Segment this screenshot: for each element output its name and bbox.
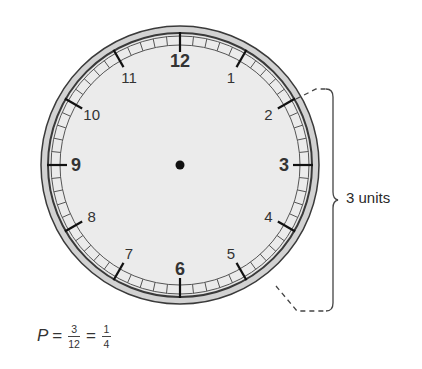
units-label: 3 units: [346, 189, 390, 206]
formula-equals: =: [52, 326, 62, 346]
hour-number-5: 5: [227, 245, 235, 262]
hour-number-2: 2: [264, 106, 272, 123]
denominator: 4: [103, 338, 109, 350]
dashed-line-bottom: [276, 286, 326, 311]
hour-number-9: 9: [71, 155, 81, 175]
fraction-bar: [68, 336, 80, 337]
hour-number-4: 4: [264, 208, 272, 225]
fraction-bar: [102, 336, 111, 337]
hour-number-1: 1: [227, 69, 235, 86]
fraction-1-over-4: 1 4: [102, 323, 111, 350]
hour-number-10: 10: [83, 106, 100, 123]
curly-brace: [326, 89, 338, 311]
formula-equals-2: =: [86, 326, 96, 346]
numerator: 3: [71, 323, 77, 335]
fraction-3-over-12: 3 12: [68, 323, 80, 350]
formula-variable: P: [37, 326, 48, 346]
hour-number-12: 12: [170, 51, 190, 71]
hour-number-7: 7: [125, 245, 133, 262]
hour-number-3: 3: [279, 155, 289, 175]
clock-face: 121234567891011: [0, 0, 422, 369]
probability-formula: P = 3 12 = 1 4: [37, 316, 111, 356]
center-dot: [176, 161, 185, 170]
hour-number-11: 11: [121, 69, 137, 86]
hour-number-8: 8: [87, 208, 95, 225]
numerator: 1: [103, 323, 109, 335]
hour-number-6: 6: [175, 259, 185, 279]
denominator: 12: [68, 338, 80, 350]
clock-probability-diagram: 121234567891011 3 units P = 3 12 = 1 4: [0, 0, 422, 369]
